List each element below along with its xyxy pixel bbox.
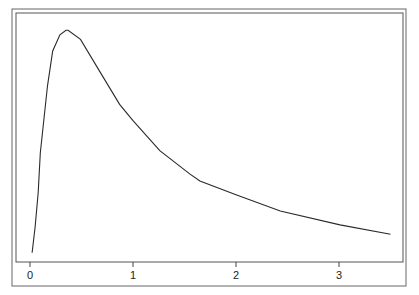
x-tick-label: 1 — [130, 269, 136, 281]
x-tick-label: 0 — [27, 269, 33, 281]
x-axis: 0123 — [27, 262, 342, 281]
density-chart: 0123 — [0, 0, 419, 295]
density-curve — [32, 30, 390, 253]
x-tick-label: 3 — [336, 269, 342, 281]
outer-frame — [12, 9, 406, 286]
x-tick-label: 2 — [233, 269, 239, 281]
plot-area-frame — [16, 13, 403, 262]
